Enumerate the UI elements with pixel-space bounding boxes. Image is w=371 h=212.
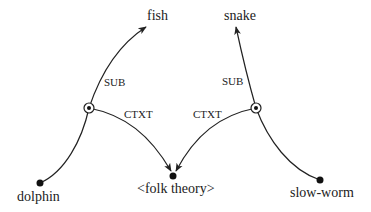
folk-theory-node <box>170 173 177 180</box>
dolphin-node <box>37 180 44 187</box>
left-ctxt-label: CTXT <box>124 108 153 120</box>
left-sub-label: SUB <box>104 76 125 88</box>
edge-left-sub <box>89 27 146 108</box>
snake-label: snake <box>224 8 256 23</box>
slow-worm-label: slow-worm <box>290 185 354 200</box>
dolphin-label: dolphin <box>17 189 60 204</box>
left-hub-node <box>84 103 94 113</box>
right-sub-label: SUB <box>222 75 243 87</box>
slow-worm-node <box>317 177 324 184</box>
edge-right-sub <box>236 27 256 108</box>
fish-label: fish <box>147 8 168 23</box>
edge-dolphin-to-hub <box>40 108 89 183</box>
folk-theory-label: <folk theory> <box>137 181 215 196</box>
concept-diagram: fish snake dolphin slow-worm <folk theor… <box>0 0 371 212</box>
edge-slowworm-to-hub <box>256 108 320 180</box>
right-ctxt-label: CTXT <box>193 108 222 120</box>
right-hub-node <box>251 103 261 113</box>
